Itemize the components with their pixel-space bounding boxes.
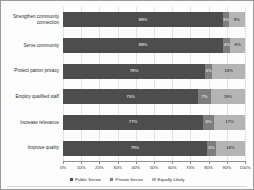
tick-label: 20% — [95, 165, 104, 170]
category-label: Improve quality — [1, 145, 59, 151]
category-label: Increase relevance — [1, 120, 59, 126]
tick-label: 80% — [204, 165, 213, 170]
gridline — [63, 7, 64, 161]
bar-row[interactable]: 77%6%17% — [63, 115, 245, 130]
legend-label: Private Sector — [115, 177, 143, 182]
tick-mark — [154, 161, 155, 164]
chart-container: 88%3%9%88%4%8%78%4%18%75%7%19%77%6%17%79… — [0, 0, 254, 190]
tick-label: 10% — [77, 165, 86, 170]
legend-item-equally-likely[interactable]: Equally Likely — [152, 177, 184, 182]
bar-segment-equally-likely[interactable]: 17% — [214, 115, 245, 130]
category-label: Employ qualified staff — [1, 94, 59, 100]
gridline — [154, 7, 155, 161]
gridline — [99, 7, 100, 161]
gridline — [245, 7, 246, 161]
bar-segment-private-sector[interactable]: 4% — [223, 38, 230, 53]
bar-segment-equally-likely[interactable]: 8% — [230, 38, 245, 53]
tick-mark — [209, 161, 210, 164]
tick-label: 60% — [168, 165, 177, 170]
tick-label: 0% — [60, 165, 66, 170]
category-label: Protect patron privacy — [1, 68, 59, 74]
tick-label: 90% — [222, 165, 231, 170]
gridline — [227, 7, 228, 161]
tick-mark — [99, 161, 100, 164]
legend-item-public-sector[interactable]: Public Sector — [70, 177, 101, 182]
bar-segment-public-sector[interactable]: 79% — [63, 141, 207, 156]
tick-label: 50% — [150, 165, 159, 170]
gridline — [190, 7, 191, 161]
bar-segment-equally-likely[interactable]: 16% — [216, 141, 245, 156]
tick-mark — [81, 161, 82, 164]
bar-segment-private-sector[interactable]: 4% — [205, 64, 212, 79]
category-label: Serve community — [1, 43, 59, 49]
bar-row[interactable]: 88%3%9% — [63, 12, 245, 27]
bar-segment-private-sector[interactable]: 6% — [203, 115, 214, 130]
tick-mark — [245, 161, 246, 164]
tick-mark — [172, 161, 173, 164]
legend-swatch-icon — [70, 178, 74, 182]
category-label: Strengthen community connection — [1, 14, 59, 25]
bar-row[interactable]: 75%7%19% — [63, 89, 245, 104]
legend-label: Equally Likely — [158, 177, 185, 182]
gridline — [209, 7, 210, 161]
tick-label: 30% — [113, 165, 122, 170]
tick-label: 100% — [240, 165, 251, 170]
legend-label: Public Sector — [75, 177, 101, 182]
bar-segment-public-sector[interactable]: 88% — [63, 38, 223, 53]
tick-label: 70% — [186, 165, 195, 170]
chart-legend: Public SectorPrivate SectorEqually Likel… — [1, 177, 253, 182]
gridline — [172, 7, 173, 161]
bar-row[interactable]: 88%4%8% — [63, 38, 245, 53]
tick-mark — [118, 161, 119, 164]
bar-segment-public-sector[interactable]: 88% — [63, 12, 223, 27]
legend-swatch-icon — [152, 178, 156, 182]
bar-segment-equally-likely[interactable]: 18% — [212, 64, 245, 79]
gridline — [136, 7, 137, 161]
bar-segment-public-sector[interactable]: 77% — [63, 115, 203, 130]
bar-row[interactable]: 78%4%18% — [63, 64, 245, 79]
tick-mark — [63, 161, 64, 164]
bar-segment-equally-likely[interactable]: 19% — [211, 89, 245, 104]
gridline — [81, 7, 82, 161]
bar-segment-private-sector[interactable]: 5% — [207, 141, 216, 156]
gridline — [118, 7, 119, 161]
legend-divider — [7, 186, 247, 187]
tick-mark — [227, 161, 228, 164]
tick-mark — [136, 161, 137, 164]
legend-swatch-icon — [110, 178, 114, 182]
legend-item-private-sector[interactable]: Private Sector — [110, 177, 143, 182]
bar-segment-private-sector[interactable]: 7% — [198, 89, 211, 104]
tick-mark — [190, 161, 191, 164]
bar-segment-equally-likely[interactable]: 9% — [229, 12, 245, 27]
bar-row[interactable]: 79%5%16% — [63, 141, 245, 156]
bar-segment-public-sector[interactable]: 75% — [63, 89, 198, 104]
bar-segment-public-sector[interactable]: 78% — [63, 64, 205, 79]
tick-label: 40% — [131, 165, 140, 170]
